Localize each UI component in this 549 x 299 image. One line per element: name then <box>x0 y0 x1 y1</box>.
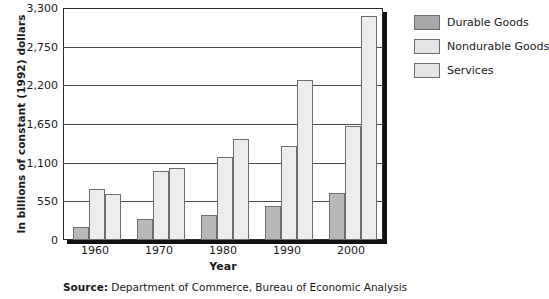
bar-group-2000 <box>329 8 377 240</box>
y-tick-label: 2,200 <box>27 79 59 92</box>
legend-item-durable: Durable Goods <box>414 14 542 31</box>
bar-services-1960 <box>105 194 121 240</box>
legend-label-durable: Durable Goods <box>447 16 529 29</box>
legend-swatch-nondurable <box>414 39 440 54</box>
plot-area: 05501,1001,6502,2002,7503,300 <box>63 8 383 240</box>
y-tick-label: 3,300 <box>27 2 59 15</box>
bar-nondurable-1990 <box>281 146 297 240</box>
x-tick-label: 1980 <box>209 244 237 257</box>
bar-nondurable-1960 <box>89 189 105 240</box>
bar-nondurable-1970 <box>153 171 169 240</box>
x-tick-label: 1960 <box>81 244 109 257</box>
x-axis-title: Year <box>63 260 383 273</box>
legend-item-nondurable: Nondurable Goods <box>414 38 542 55</box>
x-tick-label: 2000 <box>337 244 365 257</box>
bar-group-1980 <box>201 8 249 240</box>
bar-services-1990 <box>297 80 313 240</box>
y-tick-label: 1,650 <box>27 118 59 131</box>
bar-nondurable-1980 <box>217 157 233 240</box>
plot-frame-shadow-right <box>383 12 387 244</box>
source-text: Department of Commerce, Bureau of Econom… <box>108 281 407 293</box>
chart-legend: Durable GoodsNondurable GoodsServices <box>414 14 542 86</box>
source-label: Source: <box>63 281 108 293</box>
bar-services-2000 <box>361 16 377 240</box>
bar-durable-1990 <box>265 206 281 240</box>
bar-durable-1970 <box>137 219 153 240</box>
legend-label-services: Services <box>447 64 493 77</box>
bar-durable-1960 <box>73 227 89 240</box>
bar-nondurable-2000 <box>345 126 361 240</box>
x-tick-label: 1990 <box>273 244 301 257</box>
y-tick-label: 2,750 <box>27 40 59 53</box>
bar-services-1970 <box>169 168 185 240</box>
bar-services-1980 <box>233 139 249 240</box>
source-note: Source: Department of Commerce, Bureau o… <box>63 281 463 293</box>
y-axis-title: In billions of constant (1992) dollars <box>15 0 27 249</box>
legend-item-services: Services <box>414 62 542 79</box>
y-tick-label: 550 <box>37 195 58 208</box>
legend-label-nondurable: Nondurable Goods <box>447 40 549 53</box>
y-tick-label: 0 <box>51 234 58 247</box>
legend-swatch-durable <box>414 15 440 30</box>
bar-group-1990 <box>265 8 313 240</box>
bar-group-1960 <box>73 8 121 240</box>
x-tick-label: 1970 <box>145 244 173 257</box>
bar-durable-2000 <box>329 193 345 240</box>
bar-durable-1980 <box>201 215 217 240</box>
y-tick-label: 1,100 <box>27 156 59 169</box>
bar-group-1970 <box>137 8 185 240</box>
bars-layer <box>63 8 383 240</box>
legend-swatch-services <box>414 63 440 78</box>
